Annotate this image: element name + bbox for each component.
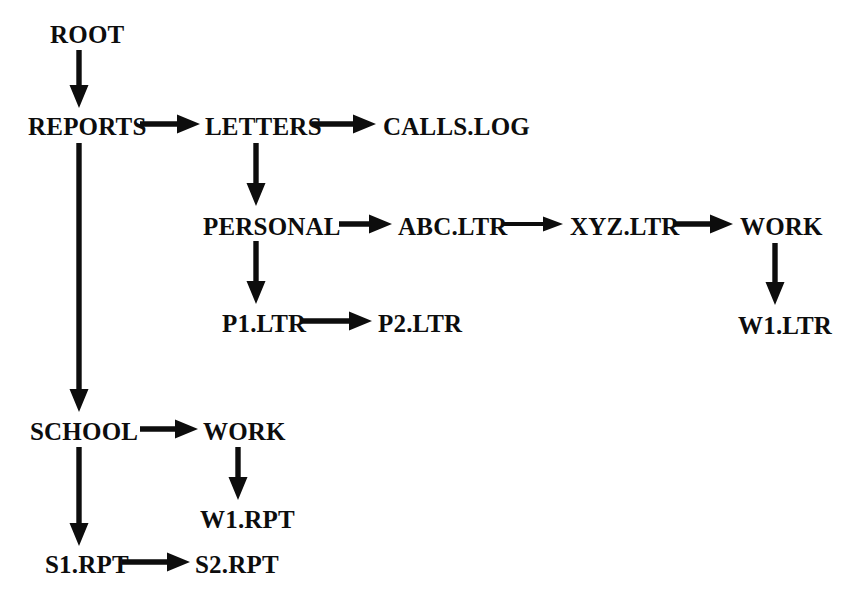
node-p1ltr: P1.LTR bbox=[222, 311, 306, 336]
arrow-e-school-s1 bbox=[70, 447, 89, 546]
arrow-e-work-w1rpt bbox=[229, 447, 248, 500]
arrow-e-personal-abc bbox=[339, 215, 392, 234]
node-p2ltr: P2.LTR bbox=[378, 311, 462, 336]
arrow-e-reports-school bbox=[70, 143, 89, 412]
arrow-e-s1-s2 bbox=[122, 553, 190, 572]
node-work_ltr: WORK bbox=[740, 214, 823, 239]
node-root: ROOT bbox=[50, 22, 124, 47]
node-work_rpt: WORK bbox=[203, 419, 286, 444]
arrow-e-personal-p1 bbox=[247, 241, 266, 304]
arrow-e-letters-personal bbox=[247, 143, 266, 206]
edge-layer bbox=[0, 0, 849, 606]
node-reports: REPORTS bbox=[28, 114, 147, 139]
node-callslog: CALLS.LOG bbox=[383, 114, 530, 139]
arrow-e-p1-p2 bbox=[300, 312, 372, 331]
directory-tree-diagram: ROOTREPORTSLETTERSCALLS.LOGPERSONALABC.L… bbox=[0, 0, 849, 606]
arrow-e-root-reports bbox=[70, 50, 89, 108]
node-personal: PERSONAL bbox=[203, 214, 341, 239]
node-xyzltr: XYZ.LTR bbox=[570, 214, 680, 239]
node-abcltr: ABC.LTR bbox=[398, 214, 508, 239]
node-letters: LETTERS bbox=[205, 114, 322, 139]
node-w1ltr: W1.LTR bbox=[738, 313, 832, 338]
node-school: SCHOOL bbox=[30, 419, 138, 444]
arrow-e-xyz-work bbox=[673, 215, 733, 234]
node-s1rpt: S1.RPT bbox=[45, 552, 129, 577]
arrow-e-reports-letters bbox=[140, 115, 200, 134]
node-s2rpt: S2.RPT bbox=[195, 552, 279, 577]
arrow-e-work-w1ltr bbox=[766, 243, 785, 305]
node-w1rpt: W1.RPT bbox=[200, 507, 295, 532]
arrow-e-abc-xyz bbox=[502, 217, 563, 232]
arrow-e-school-work bbox=[140, 420, 198, 439]
